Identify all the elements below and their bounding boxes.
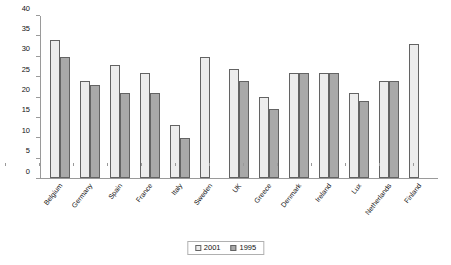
x-axis-label-cell: France bbox=[135, 182, 165, 230]
bar-group bbox=[284, 16, 314, 178]
y-axis-tick: 0 bbox=[36, 178, 40, 179]
y-axis-tick-label: 20 bbox=[22, 86, 30, 94]
x-axis-label-text: Finland bbox=[403, 182, 423, 204]
y-axis-tick: 25 bbox=[36, 76, 40, 77]
bar-group bbox=[314, 16, 344, 178]
legend-item[interactable]: 1995 bbox=[231, 244, 257, 252]
x-axis-label-cell: Italy bbox=[165, 182, 195, 230]
bar-group bbox=[344, 16, 374, 178]
x-axis-tick bbox=[243, 163, 277, 167]
bar-group bbox=[195, 16, 225, 178]
x-axis-tick bbox=[39, 163, 73, 167]
y-axis-tick-label: 30 bbox=[22, 46, 30, 54]
x-axis-label-text: France bbox=[134, 182, 153, 203]
x-axis-label-text: Belgium bbox=[42, 182, 63, 206]
y-axis-tick-label: 35 bbox=[22, 25, 30, 33]
x-axis-label-text: Sweden bbox=[192, 182, 213, 206]
x-axis-labels: BelgiumGermanySpainFranceItalySwedenUKGr… bbox=[41, 182, 438, 230]
x-axis-label-cell: Denmark bbox=[284, 182, 314, 230]
x-axis-tick bbox=[5, 163, 39, 167]
y-axis-tick-label: 15 bbox=[22, 107, 30, 115]
y-axis-tick-label: 0 bbox=[26, 168, 30, 176]
y-axis-tick: 5 bbox=[36, 158, 40, 159]
x-axis-label-cell: Netherlands bbox=[374, 182, 404, 230]
x-axis-label-text: UK bbox=[231, 182, 243, 194]
x-axis-label-text: Italy bbox=[170, 182, 183, 196]
x-axis-label-cell: Finland bbox=[404, 182, 434, 230]
x-axis-label-text: Greece bbox=[253, 182, 273, 204]
x-axis-tick bbox=[175, 163, 209, 167]
bars-layer bbox=[41, 16, 438, 178]
bar-group bbox=[75, 16, 105, 178]
bar-group bbox=[225, 16, 255, 178]
x-axis-tick bbox=[141, 163, 175, 167]
x-axis-label-cell: Spain bbox=[105, 182, 135, 230]
bar bbox=[50, 40, 60, 178]
y-axis-tick: 35 bbox=[36, 35, 40, 36]
bar bbox=[110, 65, 120, 178]
y-axis-tick-label: 25 bbox=[22, 66, 30, 74]
legend-label: 1995 bbox=[240, 244, 257, 252]
bar bbox=[60, 57, 70, 179]
y-axis-tick: 15 bbox=[36, 117, 40, 118]
y-axis-tick-label: 40 bbox=[22, 5, 30, 13]
y-axis-tick: 10 bbox=[36, 137, 40, 138]
legend-label: 2001 bbox=[204, 244, 221, 252]
y-axis-tick: 40 bbox=[36, 15, 40, 16]
x-axis-label-cell: Ireland bbox=[314, 182, 344, 230]
bar-group bbox=[254, 16, 284, 178]
bar-group bbox=[105, 16, 135, 178]
x-axis-label-cell: UK bbox=[225, 182, 255, 230]
y-axis-tick-label: 5 bbox=[26, 147, 30, 155]
x-axis-label-text: Spain bbox=[107, 182, 124, 200]
y-axis-tick: 30 bbox=[36, 56, 40, 57]
x-axis-label-text: Ireland bbox=[314, 182, 333, 203]
legend-item[interactable]: 2001 bbox=[195, 244, 221, 252]
x-axis-label-cell: Sweden bbox=[195, 182, 225, 230]
bar bbox=[229, 69, 239, 178]
x-axis-label-cell: Greece bbox=[254, 182, 284, 230]
bar-group bbox=[165, 16, 195, 178]
x-axis-tick bbox=[107, 163, 141, 167]
legend-swatch-icon bbox=[195, 245, 201, 251]
x-axis-label-cell: Germany bbox=[75, 182, 105, 230]
bar bbox=[200, 57, 210, 179]
y-axis-tick-label: 10 bbox=[22, 127, 30, 135]
chart-legend: 20011995 bbox=[187, 241, 264, 255]
y-axis-tick: 20 bbox=[36, 97, 40, 98]
x-axis-label-cell: Belgium bbox=[45, 182, 75, 230]
bar-chart: 0510152025303540 BelgiumGermanySpainFran… bbox=[0, 0, 451, 265]
bar-group bbox=[135, 16, 165, 178]
x-axis-label-text: Lux bbox=[350, 182, 362, 195]
bar-group bbox=[45, 16, 75, 178]
x-axis-tick bbox=[345, 163, 379, 167]
bar bbox=[170, 125, 180, 178]
bar-group bbox=[374, 16, 404, 178]
plot-area: 0510152025303540 bbox=[40, 16, 438, 179]
legend-swatch-icon bbox=[231, 245, 237, 251]
